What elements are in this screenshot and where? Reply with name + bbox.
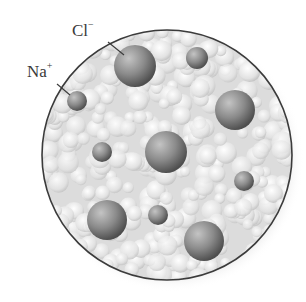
water-molecule <box>54 65 65 76</box>
water-molecule <box>251 226 262 237</box>
water-molecule <box>190 79 209 98</box>
chloride-ion <box>184 221 224 261</box>
water-molecule <box>157 235 177 255</box>
water-molecule <box>34 266 51 283</box>
water-molecule <box>77 269 92 284</box>
water-molecule <box>55 51 67 63</box>
water-molecule <box>249 33 259 43</box>
water-molecule <box>83 265 96 278</box>
water-molecule <box>56 260 76 280</box>
water-molecule <box>40 86 51 97</box>
water-molecule <box>273 24 287 38</box>
water-molecule <box>48 172 68 192</box>
water-molecule <box>276 61 293 78</box>
sodium-ion <box>92 142 112 162</box>
water-molecule <box>199 147 216 164</box>
solution-circle-figure <box>0 0 306 302</box>
water-molecule <box>194 176 214 196</box>
water-molecule <box>160 192 173 205</box>
sodium-ion <box>186 47 208 69</box>
water-molecule <box>280 269 293 282</box>
sodium-ion <box>148 205 168 225</box>
water-molecule <box>231 24 250 43</box>
water-molecule <box>95 186 110 201</box>
water-molecule <box>265 34 282 51</box>
water-molecule <box>128 91 148 111</box>
water-molecule <box>116 253 128 265</box>
water-molecule <box>180 167 190 177</box>
water-molecule <box>284 78 299 93</box>
water-molecule <box>42 156 59 173</box>
chloride-ion <box>215 90 255 130</box>
water-molecule <box>275 48 291 64</box>
water-molecule <box>268 23 283 38</box>
water-molecule <box>75 174 86 185</box>
water-molecule <box>133 110 147 124</box>
water-molecule <box>51 37 65 51</box>
water-molecule <box>255 33 273 51</box>
water-molecule <box>255 127 266 138</box>
water-molecule <box>280 69 291 80</box>
water-molecule <box>124 152 143 171</box>
sodium-charge: + <box>47 60 53 71</box>
water-molecule <box>55 39 75 59</box>
sodium-ion <box>67 91 87 111</box>
water-molecule <box>258 31 271 44</box>
chloride-label: Cl− <box>72 22 94 39</box>
chloride-symbol: Cl <box>72 21 88 40</box>
water-molecule <box>101 91 114 104</box>
water-molecule <box>41 231 55 245</box>
water-molecule <box>281 26 292 37</box>
water-molecule <box>256 260 271 275</box>
sodium-ion <box>234 171 254 191</box>
nacl-diagram: Cl− Na+ <box>0 0 306 302</box>
water-molecule <box>77 132 90 145</box>
sodium-symbol: Na <box>27 62 47 81</box>
water-molecule <box>269 41 279 51</box>
chloride-ion <box>87 200 127 240</box>
chloride-charge: − <box>88 19 94 30</box>
water-molecule <box>56 245 67 256</box>
water-molecule <box>271 245 288 262</box>
water-molecule <box>264 30 278 44</box>
water-molecule <box>182 199 199 216</box>
water-molecule <box>73 64 93 84</box>
water-molecule <box>120 120 137 137</box>
water-molecule <box>82 187 95 200</box>
water-molecule <box>232 28 248 44</box>
water-molecule <box>148 253 166 271</box>
water-molecule <box>282 256 298 272</box>
sodium-label: Na+ <box>27 63 52 80</box>
water-molecule <box>214 133 227 146</box>
water-molecule <box>279 239 289 249</box>
water-molecule <box>278 247 291 260</box>
water-molecule <box>219 64 238 83</box>
water-molecule <box>123 182 134 193</box>
water-molecule <box>172 106 191 125</box>
chloride-ion <box>145 131 187 173</box>
water-molecule <box>57 60 69 72</box>
water-molecule <box>243 219 254 230</box>
water-molecule <box>252 142 269 159</box>
water-molecule <box>275 41 295 61</box>
water-molecule <box>58 152 79 173</box>
water-molecule <box>97 128 111 142</box>
water-molecule <box>258 110 271 123</box>
water-molecule <box>190 119 210 139</box>
water-molecule <box>281 28 301 48</box>
water-molecule <box>272 140 292 160</box>
water-molecule <box>95 103 107 115</box>
water-molecule <box>166 89 182 105</box>
water-molecule <box>63 132 79 148</box>
water-molecule <box>234 198 252 216</box>
water-molecule <box>38 30 53 45</box>
water-molecule <box>157 26 169 38</box>
water-molecule <box>127 206 142 221</box>
